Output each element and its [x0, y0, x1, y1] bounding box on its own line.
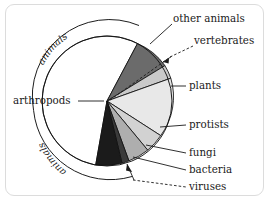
label-bacteria: bacteria — [189, 163, 232, 175]
leader-bacteria — [133, 157, 186, 170]
leader-fungi — [146, 145, 186, 153]
label-other-animals: other animals — [173, 12, 245, 24]
figure-card: animals animals other animals vertebrate… — [0, 0, 270, 201]
leader-viruses-dashed — [133, 180, 186, 187]
label-protists: protists — [189, 118, 229, 130]
label-fungi: fungi — [189, 146, 217, 158]
label-vertebrates: vertebrates — [193, 34, 254, 46]
leader-vertebrates-dashed — [170, 46, 193, 57]
arrowhead-viruses — [126, 164, 132, 172]
leader-other-animals — [150, 24, 172, 44]
pie-chart-figure: animals animals other animals vertebrate… — [0, 0, 270, 201]
label-arthropods: arthropods — [13, 94, 71, 106]
label-viruses: viruses — [188, 180, 226, 192]
label-plants: plants — [189, 79, 221, 91]
